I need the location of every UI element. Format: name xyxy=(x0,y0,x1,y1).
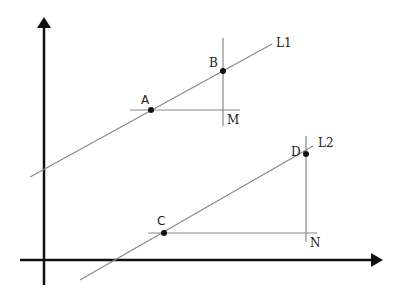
points xyxy=(148,68,309,236)
label-B: B xyxy=(209,56,218,70)
y-axis-arrow-icon xyxy=(37,17,51,28)
label-C: C xyxy=(157,214,165,228)
label-D: D xyxy=(291,145,301,159)
point-A xyxy=(148,107,154,113)
label-N: N xyxy=(310,236,321,250)
x-axis-arrow-icon xyxy=(371,253,383,267)
label-A: A xyxy=(141,93,150,107)
point-D xyxy=(303,151,309,157)
label-L2: L2 xyxy=(318,136,334,150)
point-C xyxy=(161,230,167,236)
axes xyxy=(20,17,383,285)
labels: L1 L2 A B C D M N xyxy=(141,36,334,250)
point-B xyxy=(220,68,226,74)
label-L1: L1 xyxy=(276,36,292,50)
label-M: M xyxy=(227,113,239,127)
diagram-canvas: L1 L2 A B C D M N xyxy=(0,0,400,297)
